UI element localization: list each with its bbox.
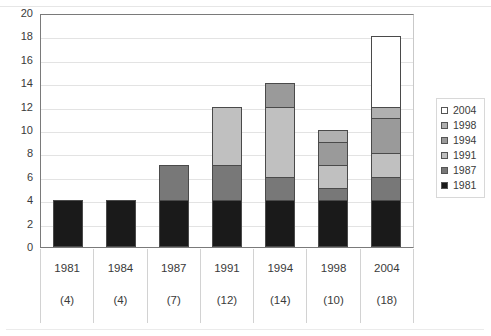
legend-swatch-1994 [441,137,448,144]
y-axis-tick-4: 4 [7,195,33,206]
category-column-1984: 1984(4) [94,249,147,323]
bar-segment-1998-1981[interactable] [318,200,348,247]
bar-segment-1998-1998[interactable] [318,130,348,142]
legend-item-1994[interactable]: 1994 [441,133,481,148]
category-label-1987: 1987 [161,262,187,274]
category-total-1981: (4) [60,294,74,306]
legend-label-1998: 1998 [453,120,476,131]
bar-segment-2004-1998[interactable] [371,107,401,119]
bar-segment-1994-1994[interactable] [265,83,295,106]
y-axis-tick-12: 12 [7,102,33,113]
legend-label-1991: 1991 [453,150,476,161]
category-total-1998: (10) [323,294,343,306]
legend-swatch-1987 [441,167,448,174]
bottom-divider [6,329,484,330]
bar-segment-1994-1987[interactable] [265,177,295,200]
category-label-1994: 1994 [267,262,293,274]
bar-segment-2004-1991[interactable] [371,153,401,176]
plot-area [40,14,414,248]
legend-item-1998[interactable]: 1998 [441,118,481,133]
legend-swatch-1991 [441,152,448,159]
bar-1998[interactable] [318,130,348,247]
legend-item-1987[interactable]: 1987 [441,163,481,178]
category-total-2004: (18) [377,294,397,306]
category-label-2004: 2004 [374,262,400,274]
bar-segment-1998-1991[interactable] [318,165,348,188]
category-column-2004: 2004(18) [361,249,414,323]
y-axis-tick-16: 16 [7,55,33,66]
legend-item-1981[interactable]: 1981 [441,178,481,193]
legend-swatch-1981 [441,182,448,189]
legend-swatch-1998 [441,122,448,129]
legend-label-1981: 1981 [453,180,476,191]
bar-segment-1984-1981[interactable] [106,200,136,247]
category-column-1998: 1998(10) [307,249,360,323]
bar-1984[interactable] [106,200,136,247]
stacked-bar-chart: 20181614121086420 1981(4)1984(4)1987(7)1… [6,14,417,324]
bar-segment-2004-2004[interactable] [371,36,401,106]
legend-item-1991[interactable]: 1991 [441,148,481,163]
category-label-1984: 1984 [108,262,134,274]
bar-slot-1991 [200,15,253,247]
y-axis-tick-20: 20 [7,8,33,19]
chart-page: 20181614121086420 1981(4)1984(4)1987(7)1… [0,0,491,336]
bar-segment-2004-1987[interactable] [371,177,401,200]
bar-slot-1994 [254,15,307,247]
bar-slot-2004 [360,15,413,247]
y-axis-tick-18: 18 [7,31,33,42]
legend-label-1987: 1987 [453,165,476,176]
category-total-1991: (12) [217,294,237,306]
category-total-1987: (7) [167,294,181,306]
legend-label-1994: 1994 [453,135,476,146]
top-divider [0,6,491,7]
bar-segment-1998-1987[interactable] [318,188,348,200]
bar-slot-1984 [94,15,147,247]
y-axis-tick-0: 0 [7,242,33,253]
bar-segment-1994-1981[interactable] [265,200,295,247]
y-axis-tick-labels: 20181614121086420 [6,14,37,248]
y-axis-tick-10: 10 [7,125,33,136]
bar-slot-1987 [147,15,200,247]
y-axis-tick-2: 2 [7,219,33,230]
legend: 200419981994199119871981 [436,98,485,198]
category-label-1991: 1991 [214,262,240,274]
bar-1981[interactable] [53,200,83,247]
x-axis-category-table: 1981(4)1984(4)1987(7)1991(12)1994(14)199… [40,249,414,323]
bar-1987[interactable] [159,165,189,247]
bar-2004[interactable] [371,36,401,247]
bar-1991[interactable] [212,107,242,247]
bar-slot-1981 [41,15,94,247]
bar-segment-1987-1987[interactable] [159,165,189,200]
category-column-1994: 1994(14) [254,249,307,323]
legend-item-2004[interactable]: 2004 [441,103,481,118]
category-column-1987: 1987(7) [148,249,201,323]
bar-segment-1991-1991[interactable] [212,107,242,166]
legend-label-2004: 2004 [453,105,476,116]
bar-segment-1994-1991[interactable] [265,107,295,177]
category-total-1984: (4) [113,294,127,306]
category-column-1991: 1991(12) [201,249,254,323]
bar-group [41,15,413,247]
bar-segment-2004-1994[interactable] [371,118,401,153]
bar-1994[interactable] [265,83,295,247]
bar-segment-1981-1981[interactable] [53,200,83,247]
bar-slot-1998 [307,15,360,247]
bar-segment-1987-1981[interactable] [159,200,189,247]
category-total-1994: (14) [270,294,290,306]
y-axis-tick-14: 14 [7,78,33,89]
category-label-1998: 1998 [321,262,347,274]
bar-segment-1991-1981[interactable] [212,200,242,247]
bar-segment-1998-1994[interactable] [318,142,348,165]
category-column-1981: 1981(4) [41,249,94,323]
plot-area-container: 20181614121086420 [6,14,417,262]
y-axis-tick-6: 6 [7,172,33,183]
category-label-1981: 1981 [54,262,80,274]
bar-segment-2004-1981[interactable] [371,200,401,247]
y-axis-tick-8: 8 [7,148,33,159]
legend-swatch-2004 [441,107,448,114]
bar-segment-1991-1987[interactable] [212,165,242,200]
